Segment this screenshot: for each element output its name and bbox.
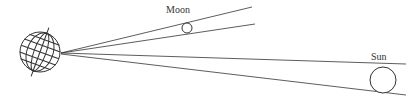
moon-label: Moon	[166, 4, 190, 15]
earth-globe-icon	[12, 21, 67, 84]
sun-label: Sun	[371, 51, 387, 62]
moon-circle	[182, 23, 192, 33]
eclipse-diagram	[0, 0, 414, 103]
moon-rays	[61, 7, 255, 53]
sun-rays	[61, 53, 406, 95]
sun-circle	[370, 67, 396, 93]
